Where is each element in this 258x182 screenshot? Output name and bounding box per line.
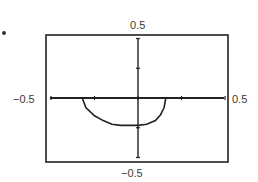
curve-series <box>82 98 166 125</box>
plot-area <box>0 0 258 182</box>
